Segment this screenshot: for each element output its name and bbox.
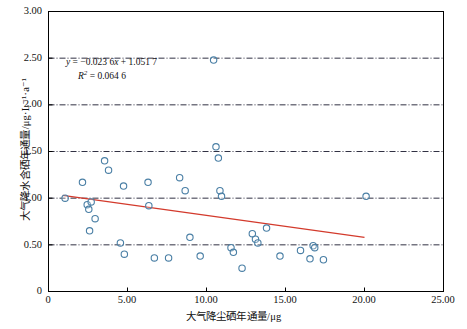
data-point [182, 188, 188, 194]
data-point [215, 155, 221, 161]
scatter-chart-figure: 大气降水含硒年通量/μg·L⁻¹·a⁻¹ 3.00 2.50 2.00 1.50… [0, 0, 467, 329]
data-point [165, 255, 171, 261]
data-point [263, 225, 269, 231]
data-point [277, 253, 283, 259]
data-point [363, 193, 369, 199]
data-point [92, 216, 98, 222]
data-point [88, 199, 94, 205]
data-point [320, 257, 326, 263]
data-point [255, 240, 261, 246]
data-point [297, 247, 303, 253]
data-point [307, 256, 313, 262]
plot-area [0, 0, 467, 329]
data-point [145, 179, 151, 185]
data-point [120, 183, 126, 189]
data-point [146, 202, 152, 208]
data-point [86, 228, 92, 234]
data-point [101, 158, 107, 164]
data-point [197, 253, 203, 259]
trendline [63, 195, 365, 237]
data-point [187, 234, 193, 240]
data-point [230, 249, 236, 255]
data-point [239, 265, 245, 271]
data-point [213, 144, 219, 150]
data-point [218, 193, 224, 199]
data-point [62, 195, 68, 201]
data-point [86, 206, 92, 212]
data-point [312, 244, 318, 250]
data-point [117, 240, 123, 246]
data-point [79, 179, 85, 185]
data-point [151, 255, 157, 261]
data-point [210, 57, 216, 63]
data-point [105, 167, 111, 173]
data-point [176, 174, 182, 180]
data-point [121, 251, 127, 257]
